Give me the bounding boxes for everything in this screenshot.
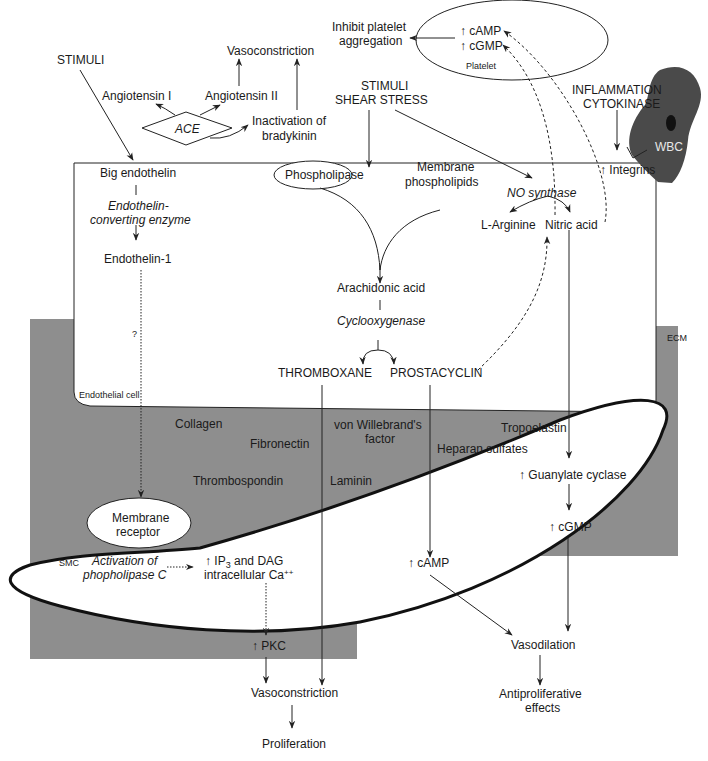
label-nitric-acid: Nitric acid xyxy=(545,218,598,232)
label-cyclooxygenase: Cyclooxygenase xyxy=(337,314,425,328)
label-membrane-phospholipids-2: phospholipids xyxy=(405,175,478,189)
label-platelet-cgmp: ↑ cGMP xyxy=(460,39,503,53)
label-pkc: ↑ PKC xyxy=(252,639,286,653)
label-inflammation-2: CYTOKINASE xyxy=(583,97,660,111)
label-antiproliferative-1: Antiproliferative xyxy=(499,687,582,701)
label-prostacyclin: PROSTACYCLIN xyxy=(390,366,482,380)
label-camp-smc: ↑ cAMP xyxy=(408,556,449,570)
label-smc: SMC xyxy=(59,558,80,568)
label-wbc: WBC xyxy=(655,140,683,154)
label-inactivation-2: bradykinin xyxy=(262,129,317,143)
label-vasodilation: Vasodilation xyxy=(511,638,576,652)
label-activation-plc-1: Activation of xyxy=(91,554,159,568)
label-endothelial-cell: Endothelial cell xyxy=(79,390,140,400)
label-stimuli-center-1: STIMULI xyxy=(361,79,408,93)
label-integrins: ↑ Integrins xyxy=(600,163,655,177)
label-von-willebrand-2: factor xyxy=(365,432,395,446)
label-platelet: Platelet xyxy=(466,61,497,71)
label-intracellular-ca: intracellular Ca++ xyxy=(204,568,294,582)
label-membrane-receptor-1: Membrane xyxy=(112,511,170,525)
label-activation-plc-2: phopholipase C xyxy=(82,568,167,582)
label-no-synthase: NO synthase xyxy=(507,186,577,200)
platelet-cell xyxy=(416,0,608,80)
label-vasoconstriction-top: Vasoconstriction xyxy=(227,44,314,58)
label-antiproliferative-2: effects xyxy=(525,701,560,715)
label-ecm: ECM xyxy=(667,333,687,343)
label-phospholipase: Phospholipase xyxy=(285,168,364,182)
label-inactivation-1: Inactivation of xyxy=(252,114,327,128)
label-arachidonic-acid: Arachidonic acid xyxy=(337,281,425,295)
label-von-willebrand-1: von Willebrand's xyxy=(334,418,422,432)
label-collagen: Collagen xyxy=(175,417,222,431)
label-stimuli-center-2: SHEAR STRESS xyxy=(335,93,428,107)
label-endothelin-1: Endothelin-1 xyxy=(104,252,172,266)
label-inhibit-1: Inhibit platelet xyxy=(332,20,407,34)
label-ece-1: Endothelin- xyxy=(108,199,169,213)
label-angiotensin-1: Angiotensin I xyxy=(102,89,171,103)
label-tropoelastin: Tropoelastin xyxy=(501,421,567,435)
label-membrane-receptor-2: receptor xyxy=(116,525,160,539)
label-thromboxane: THROMBOXANE xyxy=(278,366,372,380)
label-inhibit-2: aggregation xyxy=(339,34,402,48)
label-heparan-sulfates: Heparan sulfates xyxy=(437,442,528,456)
label-guanylate-cyclase: ↑ Guanylate cyclase xyxy=(519,468,627,482)
label-l-arginine: L-Arginine xyxy=(481,218,536,232)
label-angiotensin-2: Angiotensin II xyxy=(205,89,278,103)
label-ace: ACE xyxy=(174,122,201,136)
label-proliferation: Proliferation xyxy=(262,737,326,751)
label-thrombospondin: Thrombospondin xyxy=(193,474,283,488)
label-big-endothelin: Big endothelin xyxy=(100,166,176,180)
label-cgmp-smc: ↑ cGMP xyxy=(549,520,592,534)
label-question: ? xyxy=(132,329,137,339)
label-vasoconstriction-bottom: Vasoconstriction xyxy=(251,686,338,700)
label-ece-2: converting enzyme xyxy=(90,213,191,227)
label-fibronectin: Fibronectin xyxy=(250,437,309,451)
wbc-nucleus xyxy=(666,115,676,131)
label-membrane-phospholipids-1: Membrane xyxy=(417,160,475,174)
label-inflammation-1: INFLAMMATION xyxy=(572,83,662,97)
label-platelet-camp: ↑ cAMP xyxy=(460,24,501,38)
label-laminin: Laminin xyxy=(330,474,372,488)
endothelium-pathway-diagram: STIMULI Angiotensin I Angiotensin II ACE… xyxy=(0,0,708,761)
label-stimuli-left: STIMULI xyxy=(57,53,104,67)
